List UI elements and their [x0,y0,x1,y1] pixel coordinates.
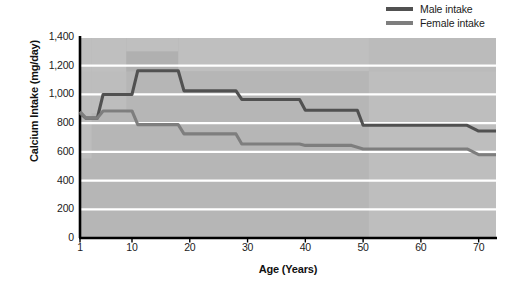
shaded-band-2 [126,37,178,51]
plot-area [0,0,517,287]
calcium-intake-chart: Male intake Female intake Calcium Intake… [0,0,517,287]
right-tone-region [369,37,496,238]
